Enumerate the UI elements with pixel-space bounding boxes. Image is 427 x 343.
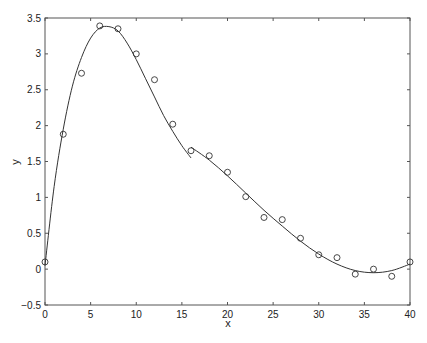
data-point-marker [316, 252, 322, 258]
plot-frame [45, 18, 410, 305]
chart: 0510152025303540 −0.500.511.522.533.5 x … [0, 0, 427, 343]
y-tick-label: 0 [35, 264, 41, 275]
y-axis-ticks: −0.500.511.522.533.5 [21, 13, 410, 311]
x-tick-label: 30 [313, 309, 325, 320]
data-point-marker [79, 70, 85, 76]
data-point-marker [206, 153, 212, 159]
y-tick-label: −0.5 [21, 300, 41, 311]
x-tick-label: 35 [359, 309, 371, 320]
data-point-marker [261, 214, 267, 220]
x-tick-label: 0 [42, 309, 48, 320]
y-tick-label: 3.5 [27, 13, 41, 24]
data-point-marker [389, 273, 395, 279]
data-point-marker [279, 217, 285, 223]
data-point-marker [60, 131, 66, 137]
y-tick-label: 1 [35, 192, 41, 203]
data-point-marker [133, 51, 139, 57]
x-tick-label: 10 [131, 309, 143, 320]
y-tick-label: 0.5 [27, 228, 41, 239]
plot-area: 0510152025303540 −0.500.511.522.533.5 [21, 13, 416, 321]
x-tick-label: 40 [404, 309, 416, 320]
x-axis-ticks: 0510152025303540 [42, 18, 416, 320]
x-tick-label: 5 [88, 309, 94, 320]
x-tick-label: 25 [268, 309, 280, 320]
y-tick-label: 2 [35, 120, 41, 131]
data-point-marker [243, 194, 249, 200]
data-point-marker [152, 77, 158, 83]
y-tick-label: 2.5 [27, 84, 41, 95]
data-point-marker [371, 266, 377, 272]
fit-lines [45, 26, 410, 272]
data-markers [42, 23, 413, 279]
x-tick-label: 15 [176, 309, 188, 320]
fit-curve [45, 26, 191, 265]
x-axis-label: x [225, 317, 231, 329]
data-point-marker [334, 255, 340, 261]
data-point-marker [188, 148, 194, 154]
data-point-marker [170, 121, 176, 127]
data-point-marker [225, 169, 231, 175]
data-point-marker [298, 235, 304, 241]
data-point-marker [352, 271, 358, 277]
fit-curve [191, 147, 410, 273]
y-axis-label: y [9, 159, 21, 165]
y-tick-label: 3 [35, 48, 41, 59]
y-tick-label: 1.5 [27, 156, 41, 167]
